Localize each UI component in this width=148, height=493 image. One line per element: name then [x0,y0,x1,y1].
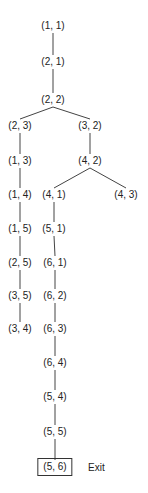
tree-node: (3, 5) [8,290,31,302]
tree-node: (1, 1) [41,20,64,32]
tree-node: (5, 5) [43,426,66,438]
tree-node: (4, 2) [78,155,101,167]
tree-node: (2, 2) [41,94,64,106]
tree-edge [54,236,55,256]
tree-node: (5, 1) [42,223,65,235]
exit-node: (5, 6) [37,458,72,476]
tree-edge [20,107,53,119]
tree-node: (5, 4) [43,391,66,403]
tree-node: (1, 4) [8,189,31,201]
tree-edge [54,168,90,188]
tree-node: (6, 4) [43,357,66,369]
tree-node: (2, 3) [8,120,31,132]
tree-edges [0,0,148,493]
exit-label: Exit [88,462,105,473]
tree-node: (4, 3) [114,189,137,201]
tree-node: (4, 1) [42,189,65,201]
tree-edge [90,168,126,188]
tree-node: (2, 5) [8,257,31,269]
tree-node: (1, 3) [8,155,31,167]
tree-node: (6, 1) [43,257,66,269]
tree-edge [53,107,90,119]
tree-node: (6, 3) [43,323,66,335]
tree-node: (2, 1) [41,56,64,68]
tree-node: (6, 2) [43,290,66,302]
tree-node: (1, 5) [8,223,31,235]
tree-node: (3, 4) [8,323,31,335]
tree-node: (3, 2) [78,120,101,132]
